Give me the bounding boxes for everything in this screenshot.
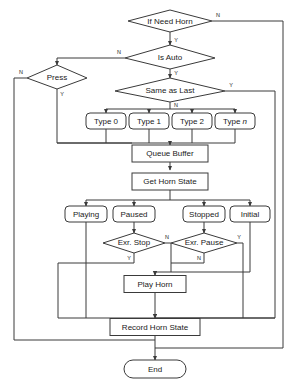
node-playing[interactable]: Playing xyxy=(65,206,107,222)
node-is-auto-label: Is Auto xyxy=(158,53,183,62)
node-type-n-label: Type n xyxy=(223,117,248,126)
node-exr-pause-label: Exr. Pause xyxy=(185,238,224,247)
node-type-n-prefix: Type xyxy=(223,117,243,126)
edge-label-same-as-last-n: N xyxy=(174,102,178,108)
node-type-1[interactable]: Type 1 xyxy=(129,113,169,129)
edge-exrpause-y-record xyxy=(237,243,243,318)
edge-isauto-n-press xyxy=(57,58,125,65)
node-get-horn-state[interactable]: Get Horn State xyxy=(132,173,208,190)
node-initial-label: Initial xyxy=(241,210,260,219)
node-exr-stop-label: Exr. Stop xyxy=(118,238,151,247)
node-is-auto[interactable]: Is Auto xyxy=(125,45,215,69)
node-get-horn-state-label: Get Horn State xyxy=(143,177,197,186)
node-same-as-last[interactable]: Same as Last xyxy=(115,78,225,102)
edge-label-exr-stop-y: Y xyxy=(127,255,131,261)
node-type-2-label: Type 2 xyxy=(180,117,205,126)
node-press-label: Press xyxy=(47,73,67,82)
node-end[interactable]: End xyxy=(124,360,186,378)
node-exr-stop[interactable]: Exr. Stop xyxy=(103,233,165,253)
node-type-0[interactable]: Type 0 xyxy=(86,113,126,129)
edge-label-exr-pause-y: Y xyxy=(237,234,241,240)
node-record-horn-state[interactable]: Record Horn State xyxy=(110,319,200,336)
node-type-n-suffix: n xyxy=(243,117,248,126)
edge-label-is-auto-y: Y xyxy=(174,70,178,76)
edge-label-need-horn-n: N xyxy=(216,12,220,18)
node-if-need-horn[interactable]: If Need Horn xyxy=(128,10,212,32)
node-type-1-label: Type 1 xyxy=(137,117,162,126)
node-exr-pause[interactable]: Exr. Pause xyxy=(171,233,237,253)
node-initial[interactable]: Initial xyxy=(230,206,270,222)
flowchart-svg: If Need Horn Is Auto Press Same as Last … xyxy=(0,0,299,391)
edge-label-is-auto-n: N xyxy=(117,49,121,55)
node-stopped-label: Stopped xyxy=(189,210,219,219)
node-playing-label: Playing xyxy=(73,210,99,219)
edge-label-exr-pause-n: N xyxy=(197,255,201,261)
node-queue-buffer[interactable]: Queue Buffer xyxy=(132,145,208,162)
edge-label-need-horn-y: Y xyxy=(174,37,178,43)
edge-label-same-as-last-y: Y xyxy=(229,82,233,88)
node-type-0-label: Type 0 xyxy=(94,117,119,126)
edge-exrstop-n-playhorn xyxy=(165,243,171,272)
edge-exrstop-y-record xyxy=(58,253,134,318)
node-type-2[interactable]: Type 2 xyxy=(172,113,212,129)
node-type-n[interactable]: Type n xyxy=(215,113,255,129)
edge-label-layer: N Y N Y N Y Y N Y N N Y xyxy=(19,12,241,261)
flowchart-canvas: If Need Horn Is Auto Press Same as Last … xyxy=(0,0,299,391)
node-end-label: End xyxy=(148,365,162,374)
node-queue-buffer-label: Queue Buffer xyxy=(146,149,194,158)
node-paused-label: Paused xyxy=(120,210,147,219)
node-same-as-last-label: Same as Last xyxy=(146,86,196,95)
node-layer: If Need Horn Is Auto Press Same as Last … xyxy=(27,10,270,378)
edge-label-exr-stop-n: N xyxy=(165,234,169,240)
edge-label-press-y: Y xyxy=(60,91,64,97)
node-play-horn[interactable]: Play Horn xyxy=(124,276,186,293)
node-paused[interactable]: Paused xyxy=(113,206,155,222)
node-stopped[interactable]: Stopped xyxy=(183,206,225,222)
node-play-horn-label: Play Horn xyxy=(137,280,172,289)
node-press[interactable]: Press xyxy=(27,65,87,89)
node-if-need-horn-label: If Need Horn xyxy=(147,17,192,26)
node-record-horn-state-label: Record Horn State xyxy=(122,323,189,332)
edge-label-press-n: N xyxy=(19,69,23,75)
